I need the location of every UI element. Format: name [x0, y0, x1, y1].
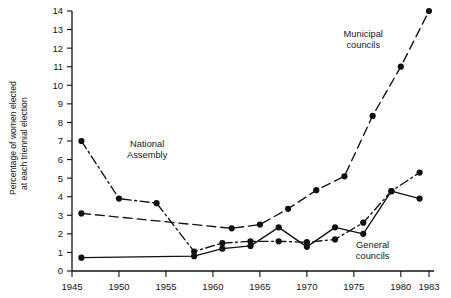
- y-tick-label: 14: [52, 5, 63, 16]
- x-tick-label: 1945: [61, 281, 82, 292]
- data-point: [257, 221, 263, 227]
- x-tick-label: 1955: [155, 281, 176, 292]
- x-tick-label: 1980: [390, 281, 411, 292]
- annotation-line1: General: [356, 240, 389, 250]
- data-point: [276, 238, 282, 244]
- data-point: [426, 8, 432, 14]
- data-point: [229, 225, 235, 231]
- y-tick-label: 9: [58, 98, 63, 109]
- y-axis-title: Percentage of women elected at each trie…: [8, 81, 29, 195]
- x-tick-label: 1960: [202, 281, 223, 292]
- annotation-line2: councils: [346, 40, 380, 50]
- data-point: [219, 246, 225, 252]
- data-point: [285, 206, 291, 212]
- annotation-line1: National: [130, 139, 164, 149]
- y-tick-label: 0: [58, 265, 63, 276]
- data-point: [370, 113, 376, 119]
- data-point: [78, 138, 84, 144]
- y-axis-title-line2: at each triennial election: [19, 97, 29, 190]
- data-point: [304, 244, 310, 250]
- annotation-line1: Municipal: [344, 29, 383, 39]
- x-tick-label: 1965: [249, 281, 270, 292]
- y-axis-title-line1: Percentage of women elected: [8, 81, 18, 195]
- y-tick-label: 1: [58, 247, 63, 258]
- x-tick-label: 1983: [418, 281, 439, 292]
- data-point: [219, 240, 225, 246]
- data-point: [341, 173, 347, 179]
- annotation-line2: councils: [356, 251, 390, 261]
- x-tick-label: 1950: [108, 281, 129, 292]
- y-tick-label: 4: [58, 191, 63, 202]
- data-point: [153, 200, 159, 206]
- data-point: [360, 220, 366, 226]
- data-point: [332, 224, 338, 230]
- data-point: [78, 210, 84, 216]
- data-point: [247, 243, 253, 249]
- data-point: [417, 169, 423, 175]
- y-tick-label: 8: [58, 117, 63, 128]
- annotation-national: NationalAssembly: [127, 139, 168, 160]
- x-tick-label: 1975: [343, 281, 364, 292]
- x-tick-label: 1970: [296, 281, 317, 292]
- chart-figure: Percentage of women elected at each trie…: [0, 0, 451, 298]
- data-point: [78, 255, 84, 261]
- data-point: [313, 187, 319, 193]
- y-tick-label: 6: [58, 154, 63, 165]
- y-tick-label: 12: [52, 43, 63, 54]
- data-point: [417, 195, 423, 201]
- data-point: [398, 64, 404, 70]
- annotation-line2: Assembly: [127, 150, 168, 160]
- data-point: [116, 195, 122, 201]
- chart-svg: Percentage of women elected at each trie…: [0, 0, 451, 298]
- data-point: [191, 253, 197, 259]
- data-point: [360, 231, 366, 237]
- y-tick-label: 2: [58, 228, 63, 239]
- annotation-municipal: Municipalcouncils: [344, 29, 383, 50]
- data-point: [276, 224, 282, 230]
- y-tick-label: 3: [58, 210, 63, 221]
- data-point: [332, 236, 338, 242]
- y-tick-label: 5: [58, 173, 63, 184]
- y-tick-label: 10: [52, 80, 63, 91]
- data-point: [388, 188, 394, 194]
- y-tick-label: 11: [53, 61, 63, 72]
- y-tick-label: 7: [58, 135, 63, 146]
- y-tick-label: 13: [52, 24, 63, 35]
- annotation-general: Generalcouncils: [356, 240, 390, 261]
